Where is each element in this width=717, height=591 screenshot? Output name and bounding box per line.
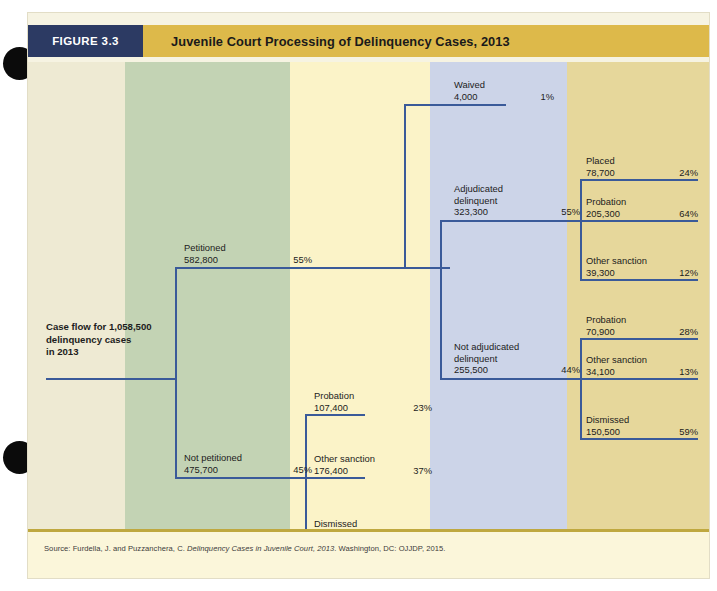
node-waived-pct: 1% (540, 91, 554, 103)
node-not-adjudicated-label: Not adjudicated (454, 341, 580, 353)
node-nadj-other-sanction-pct: 13% (679, 366, 698, 378)
node-adj-placed-pct: 24% (679, 167, 698, 179)
node-not-petitioned: Not petitioned 475,700 45% (184, 452, 312, 475)
node-adj-other-sanction-values: 39,300 12% (586, 267, 698, 279)
node-petitioned-values: 582,800 55% (184, 254, 312, 266)
node-adjudicated-value: 323,300 (454, 206, 488, 218)
node-nadj-dismissed-values: 150,500 59% (586, 426, 698, 438)
node-adj-other-sanction-label: Other sanction (586, 255, 698, 267)
node-nadj-probation-value: 70,900 (586, 326, 615, 338)
node-not-petitioned-values: 475,700 45% (184, 464, 312, 476)
node-not-adjudicated-value: 255,500 (454, 364, 488, 376)
node-adjudicated-values: 323,300 55% (454, 206, 580, 218)
node-not-adjudicated: Not adjudicated delinquent 255,500 44% (454, 341, 580, 376)
node-waived-values: 4,000 1% (454, 91, 554, 103)
node-root-line2: delinquency cases (46, 334, 186, 347)
node-np-probation-pct: 23% (413, 402, 432, 414)
node-np-probation-values: 107,400 23% (314, 402, 432, 414)
node-root: Case flow for 1,058,500 delinquency case… (46, 321, 186, 359)
connector-np-rule-a (305, 414, 362, 416)
node-petitioned-label: Petitioned (184, 242, 312, 254)
background-band-5 (567, 62, 709, 529)
node-root-line3: in 2013 (46, 346, 186, 359)
node-np-other-sanction-label: Other sanction (314, 453, 432, 465)
node-np-other-sanction-pct: 37% (413, 465, 432, 477)
node-adj-probation-values: 205,300 64% (586, 208, 698, 220)
node-nadj-dismissed-pct: 59% (679, 426, 698, 438)
node-not-adjudicated-label2: delinquent (454, 353, 580, 365)
node-adj-other-sanction-value: 39,300 (586, 267, 615, 279)
node-nadj-dismissed-value: 150,500 (586, 426, 620, 438)
background-band-1 (28, 62, 125, 529)
node-adj-other-sanction: Other sanction 39,300 12% (586, 255, 698, 278)
node-adj-probation: Probation 205,300 64% (586, 196, 698, 219)
node-waived-value: 4,000 (454, 91, 477, 103)
flow-diagram-canvas: Case flow for 1,058,500 delinquency case… (28, 62, 709, 529)
node-adjudicated: Adjudicated delinquent 323,300 55% (454, 183, 580, 218)
node-not-adjudicated-pct: 44% (561, 364, 580, 376)
node-nadj-probation-values: 70,900 28% (586, 326, 698, 338)
connector-level1-spine (175, 267, 177, 479)
connector-not-petitioned-underline (175, 477, 305, 479)
node-adj-placed-label: Placed (586, 155, 698, 167)
node-nadj-probation-pct: 28% (679, 326, 698, 338)
node-adj-probation-pct: 64% (679, 208, 698, 220)
node-np-other-sanction-values: 176,400 37% (314, 465, 432, 477)
node-adj-placed-values: 78,700 24% (586, 167, 698, 179)
connector-not-adjudicated-underline (440, 378, 580, 380)
node-nadj-probation-label: Probation (586, 314, 698, 326)
connector-adj-other-underline (580, 279, 698, 281)
node-not-petitioned-label: Not petitioned (184, 452, 312, 464)
node-adjudicated-pct: 55% (561, 206, 580, 218)
node-np-dismissed-label: Dismissed (314, 518, 432, 530)
node-nadj-other-sanction: Other sanction 34,100 13% (586, 354, 698, 377)
node-not-petitioned-pct: 45% (293, 464, 312, 476)
node-nadj-dismissed-label: Dismissed (586, 414, 698, 426)
node-np-probation-value: 107,400 (314, 402, 348, 414)
source-citation: Source: Furdella, J. and Puzzanchera, C.… (44, 544, 684, 553)
connector-adj-placed-underline (580, 179, 698, 181)
source-title: Delinquency Cases in Juvenile Court, 201… (187, 544, 334, 553)
connector-np-other-underline (305, 477, 365, 479)
node-adjudicated-label2: delinquent (454, 195, 580, 207)
connector-root-underline (46, 378, 176, 380)
connector-petitioned-underline (175, 267, 450, 269)
connector-adj-probation-underline (580, 220, 698, 222)
figure-footer-band (28, 532, 709, 578)
node-np-other-sanction: Other sanction 176,400 37% (314, 453, 432, 476)
node-np-other-sanction-value: 176,400 (314, 465, 348, 477)
figure-header: FIGURE 3.3 Juvenile Court Processing of … (28, 25, 709, 57)
connector-adjudicated-underline (440, 220, 580, 222)
node-adjudicated-label: Adjudicated (454, 183, 580, 195)
node-np-probation: Probation 107,400 23% (314, 390, 432, 413)
node-nadj-other-sanction-label: Other sanction (586, 354, 698, 366)
figure-title: Juvenile Court Processing of Delinquency… (143, 34, 510, 49)
node-np-probation-label: Probation (314, 390, 432, 402)
connector-petitioned-stem (404, 104, 406, 269)
figure-number-badge: FIGURE 3.3 (28, 25, 143, 57)
node-nadj-dismissed: Dismissed 150,500 59% (586, 414, 698, 437)
node-petitioned: Petitioned 582,800 55% (184, 242, 312, 265)
node-root-line1: Case flow for 1,058,500 (46, 321, 186, 334)
node-nadj-other-sanction-values: 34,100 13% (586, 366, 698, 378)
connector-waived-underline (404, 104, 506, 106)
node-petitioned-pct: 55% (293, 254, 312, 266)
connector-nadj-dismissed-underline (580, 438, 698, 440)
node-adj-probation-value: 205,300 (586, 208, 620, 220)
node-adj-placed-value: 78,700 (586, 167, 615, 179)
node-not-petitioned-value: 475,700 (184, 464, 218, 476)
node-petitioned-value: 582,800 (184, 254, 218, 266)
figure-panel: FIGURE 3.3 Juvenile Court Processing of … (28, 13, 709, 578)
node-not-adjudicated-values: 255,500 44% (454, 364, 580, 376)
connector-not-petitioned-outcomes-spine (305, 414, 307, 544)
source-suffix: . Washington, DC: OJJDP, 2015. (334, 544, 445, 553)
node-adj-probation-label: Probation (586, 196, 698, 208)
node-nadj-other-sanction-value: 34,100 (586, 366, 615, 378)
source-prefix: Source: Furdella, J. and Puzzanchera, C. (44, 544, 187, 553)
node-adj-other-sanction-pct: 12% (679, 267, 698, 279)
connector-nadj-probation-underline (580, 338, 698, 340)
connector-nadj-outcomes-spine (580, 338, 582, 438)
connector-adj-outcomes-spine (580, 179, 582, 279)
node-adj-placed: Placed 78,700 24% (586, 155, 698, 178)
node-waived-label: Waived (454, 79, 554, 91)
